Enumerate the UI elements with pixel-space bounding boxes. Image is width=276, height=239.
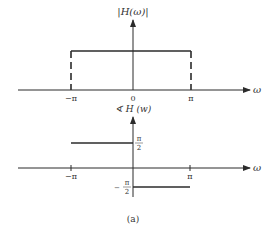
label-pi-over-2: π 2 — [135, 135, 143, 152]
magnitude-plot: |H(ω)| ω −π 0 π — [18, 6, 261, 103]
magnitude-xlabel: ω — [253, 84, 261, 95]
neg-pi-over-2-sign: − — [114, 184, 120, 192]
tick-pi: π — [188, 94, 193, 103]
phase-tick-label-pi: π — [187, 172, 192, 181]
magnitude-ylabel: |H(ω)| — [117, 6, 148, 18]
neg-pi-over-2-denominator: 2 — [125, 188, 129, 196]
phase-xlabel: ω — [253, 162, 261, 173]
figure-caption: (a) — [127, 214, 139, 224]
neg-pi-over-2-numerator: π — [125, 179, 130, 187]
phase-plot: ∢ H (w) ω −π π π 2 − π 2 — [18, 104, 261, 197]
pi-over-2-denominator: 2 — [137, 144, 141, 152]
phase-tick-label-neg-pi: −π — [65, 172, 77, 181]
label-neg-pi-over-2: − π 2 — [114, 179, 131, 196]
phase-ylabel: ∢ H (w) — [115, 104, 152, 114]
figure-canvas: |H(ω)| ω −π 0 π ∢ H (w) ω −π π π 2 − π 2… — [0, 0, 276, 239]
pi-over-2-numerator: π — [137, 135, 142, 143]
tick-zero: 0 — [130, 94, 135, 103]
tick-neg-pi: −π — [65, 94, 77, 103]
